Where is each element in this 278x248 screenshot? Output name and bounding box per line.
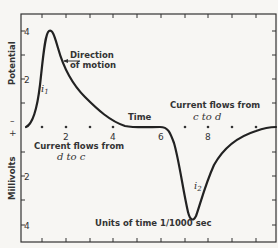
direction-label: Direction xyxy=(70,50,114,60)
x-tick-6: 6 xyxy=(158,132,164,142)
y-axis-title-millivolts: Millivolts xyxy=(7,156,17,200)
x-tick-8: 8 xyxy=(205,132,211,142)
x-tick-2: 2 xyxy=(63,132,69,142)
x-axis-title: Units of time 1/1000 sec xyxy=(95,218,212,228)
y-tick-neg2: 2 xyxy=(24,172,30,182)
current-dc-label-line2: d to c xyxy=(57,151,86,162)
direction-label-line2: of motion xyxy=(70,60,116,70)
x-tick-4: 4 xyxy=(110,132,116,142)
i1-label: i1 xyxy=(41,83,49,96)
bottom-ticks xyxy=(42,238,256,242)
current-cd-label: Current flows from xyxy=(170,100,260,110)
action-potential-chart: Direction of motion i1 i2 Time Current f… xyxy=(0,0,278,248)
i2-label: i2 xyxy=(194,180,202,193)
current-dc-label: Current flows from xyxy=(34,141,124,151)
time-label: Time xyxy=(128,112,152,122)
y-tick-4: 4 xyxy=(24,27,30,37)
y-tick-2: 2 xyxy=(24,75,30,85)
current-cd-label-line2: c to d xyxy=(193,111,221,122)
plus-sign-label: + xyxy=(9,128,17,138)
action-potential-curve xyxy=(26,31,276,220)
y-axis-title-potential: Potential xyxy=(7,41,17,85)
minus-sign-label: – xyxy=(10,116,15,126)
y-tick-neg4: 4 xyxy=(24,221,30,231)
